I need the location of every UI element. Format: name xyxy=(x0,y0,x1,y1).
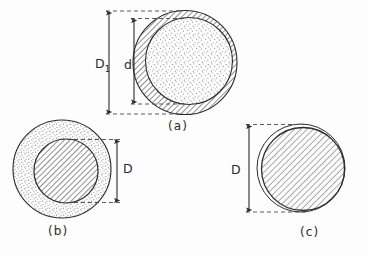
panel-label-a: (a) xyxy=(168,120,188,132)
panel-c-graphic xyxy=(246,124,345,212)
panel-label-b: (b) xyxy=(48,225,68,237)
dimension-label-D1: D1 xyxy=(95,58,110,73)
dimension-label-d: d xyxy=(124,59,132,72)
panel-label-c: (c) xyxy=(300,226,319,238)
dimension-label-D-c: D xyxy=(231,164,241,177)
diagram-canvas: D1 d D D (a) (b) (c) xyxy=(0,0,368,256)
dimension-label-D-b: D xyxy=(123,163,133,176)
panel-a-inner-circle xyxy=(146,18,233,105)
panel-b-graphic xyxy=(13,120,120,218)
panel-b-inner-circle xyxy=(34,139,98,203)
panel-c-inner-circle xyxy=(262,128,345,211)
